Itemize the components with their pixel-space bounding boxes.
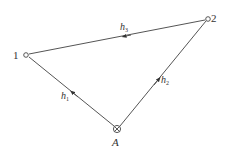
- node-1-label: 1: [13, 49, 19, 61]
- edge-h3: [29, 20, 205, 54]
- edge-h1-label: h1: [61, 90, 69, 102]
- edge-h3-sub: 3: [125, 27, 128, 33]
- node-2-icon: [206, 17, 211, 22]
- arrow-h2-icon: [154, 79, 159, 85]
- edge-h3-label: h3: [120, 21, 128, 33]
- edge-h1: [29, 57, 114, 126]
- node-2-label: 2: [211, 12, 217, 24]
- edge-h2-sub: 2: [166, 80, 169, 86]
- node-1-icon: [24, 53, 29, 58]
- arrow-h1-icon: [72, 92, 78, 97]
- node-a-label: A: [111, 136, 119, 148]
- leveling-network-diagram: 1 2 A h1 h2 h3: [0, 0, 228, 157]
- edge-h1-sub: 1: [66, 96, 69, 102]
- node-a-benchmark-icon: [113, 125, 120, 132]
- edge-h2-label: h2: [161, 74, 169, 86]
